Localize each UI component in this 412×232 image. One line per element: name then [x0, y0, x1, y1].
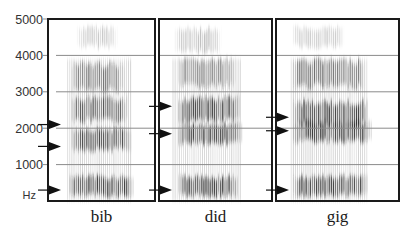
striation: [126, 59, 127, 201]
striation: [293, 59, 294, 201]
striation: [77, 27, 78, 45]
striation: [324, 27, 325, 45]
striation: [221, 59, 222, 201]
striation: [333, 59, 334, 201]
striation: [221, 27, 222, 49]
spectrogram-figure: 50004000300020001000Hz bibdidgig: [0, 0, 412, 232]
striation: [100, 28, 101, 46]
spectrogram-panels: bibdidgig: [38, 19, 399, 226]
striation: [310, 29, 311, 47]
striation: [295, 26, 296, 44]
striation: [110, 27, 111, 45]
arrow-head-icon: [160, 129, 172, 138]
striation: [204, 59, 205, 201]
striation: [316, 59, 317, 201]
striation: [99, 59, 100, 201]
striation: [303, 59, 304, 201]
spectral-energy: [67, 26, 133, 201]
striation: [208, 59, 209, 201]
striation: [301, 59, 302, 201]
striation: [202, 32, 203, 54]
striation: [337, 26, 338, 44]
striation: [208, 27, 209, 49]
striation: [308, 30, 309, 48]
striation: [314, 30, 315, 48]
striation: [181, 30, 182, 52]
striation: [217, 59, 218, 201]
formant-arrow: [266, 113, 289, 122]
striation: [339, 28, 340, 46]
y-tick-label: 1000: [15, 158, 43, 172]
striation: [217, 31, 218, 53]
arrow-head-icon: [277, 126, 289, 135]
striation: [87, 26, 88, 44]
striation: [231, 59, 232, 201]
striation: [343, 59, 344, 201]
striation: [310, 59, 311, 201]
striation: [200, 59, 201, 201]
striation: [238, 59, 239, 201]
striation: [105, 59, 106, 201]
striation: [306, 28, 307, 46]
striation: [113, 27, 114, 45]
striation: [308, 59, 309, 201]
y-tick-label: 4000: [15, 49, 43, 63]
striation: [206, 59, 207, 201]
striation: [114, 59, 115, 201]
y-tick-label: 3000: [15, 85, 43, 99]
striation: [95, 59, 96, 201]
striation: [187, 27, 188, 49]
striation: [92, 26, 93, 44]
striation: [320, 30, 321, 48]
spectrogram-panel-did: did: [149, 19, 272, 226]
formant-arrow: [149, 129, 172, 138]
striation: [80, 59, 81, 201]
striation: [72, 59, 73, 201]
arrow-head-icon: [49, 142, 61, 151]
striation: [175, 59, 176, 201]
striation: [93, 59, 94, 201]
striation: [327, 29, 328, 47]
striation: [117, 27, 118, 45]
striation: [301, 30, 302, 48]
striation: [297, 59, 298, 201]
arrow-head-icon: [277, 186, 289, 195]
striation: [82, 59, 83, 201]
striation: [219, 31, 220, 53]
striation: [116, 59, 117, 201]
striation: [122, 59, 123, 201]
striation: [297, 26, 298, 44]
striation: [341, 28, 342, 46]
striation: [67, 59, 68, 201]
striation: [183, 59, 184, 201]
striation: [303, 26, 304, 44]
striation: [322, 27, 323, 45]
striation: [362, 59, 363, 201]
striation: [345, 59, 346, 201]
striation: [84, 59, 85, 201]
word-label: did: [205, 207, 227, 226]
formant-arrow: [149, 186, 172, 195]
striation: [130, 59, 131, 201]
formant-band: [173, 27, 223, 55]
spectral-energy: [291, 26, 372, 201]
formant-arrow: [38, 186, 61, 195]
striation: [337, 59, 338, 201]
striation: [240, 59, 241, 201]
striation: [324, 59, 325, 201]
striation: [312, 59, 313, 201]
arrow-head-icon: [49, 186, 61, 195]
striation: [360, 59, 361, 201]
striation: [236, 59, 237, 201]
striation: [200, 28, 201, 50]
striation: [318, 59, 319, 201]
striation: [89, 27, 90, 45]
spectrogram-panel-gig: gig: [266, 19, 399, 226]
striation: [189, 30, 190, 52]
striation: [78, 59, 79, 201]
striation: [227, 59, 228, 201]
striation: [198, 33, 199, 55]
striation: [196, 30, 197, 52]
y-tick-label: 5000: [15, 13, 43, 27]
striation: [79, 28, 80, 46]
